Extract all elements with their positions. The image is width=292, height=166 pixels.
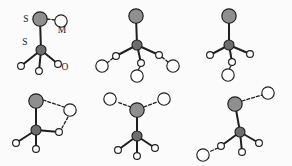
atom-oxygen-3 xyxy=(152,145,159,152)
atom-oxygen-1 xyxy=(18,63,25,70)
hydrogen-bond xyxy=(62,117,68,128)
atom-water-1 xyxy=(222,69,234,81)
structure-panel-e xyxy=(104,93,170,160)
atom-label-water-molecule: M xyxy=(58,25,67,35)
hydrogen-bond xyxy=(47,19,55,20)
structure-panel-a: SMSO xyxy=(18,12,69,75)
structure-panel-f xyxy=(197,87,274,161)
atom-central-sulfur xyxy=(31,125,41,135)
atom-oxygen-3 xyxy=(256,140,263,147)
atom-central-sulfur xyxy=(224,40,234,50)
atom-central-sulfur xyxy=(132,40,142,50)
atom-label-oxygen: O xyxy=(62,62,69,72)
atom-central-sulfur xyxy=(235,127,245,137)
atom-water-1 xyxy=(104,93,116,105)
atom-terminal-sulfur xyxy=(222,9,236,23)
atom-water-3 xyxy=(167,60,179,72)
atom-oxygen-1 xyxy=(13,140,20,147)
structure-panel-c xyxy=(207,9,254,81)
atom-terminal-sulfur xyxy=(29,94,43,108)
atom-label-central-sulfur: S xyxy=(22,37,27,47)
atom-terminal-sulfur xyxy=(228,97,242,111)
hydrogen-bond xyxy=(162,57,168,62)
atom-oxygen-2 xyxy=(229,59,236,66)
figure-canvas: SMSO xyxy=(0,0,292,166)
atom-central-sulfur xyxy=(36,45,46,55)
hydrogen-bond xyxy=(209,148,218,152)
atom-oxygen-2 xyxy=(134,153,141,160)
atom-oxygen-2 xyxy=(36,68,43,75)
atom-water-2 xyxy=(131,70,143,82)
atom-water-2 xyxy=(158,93,170,105)
hydrogen-bond xyxy=(107,58,113,63)
atom-oxygen-1 xyxy=(218,143,225,150)
atom-terminal-sulfur xyxy=(130,103,144,117)
atom-oxygen-2 xyxy=(33,146,40,153)
atom-terminal-sulfur xyxy=(129,9,143,23)
atom-terminal-sulfur xyxy=(33,12,47,26)
atom-water-1 xyxy=(64,104,76,116)
atom-oxygen-3 xyxy=(247,51,254,58)
atom-water-1 xyxy=(96,60,108,72)
atom-label-terminal-sulfur: S xyxy=(23,14,28,24)
atom-water-1 xyxy=(262,87,274,99)
structure-panel-d xyxy=(13,94,77,153)
atom-oxygen-1 xyxy=(115,147,122,154)
atom-oxygen-bridge xyxy=(56,129,63,136)
hydrogen-bond xyxy=(242,95,262,101)
atom-oxygen-2 xyxy=(239,149,246,156)
atom-oxygen-3 xyxy=(156,52,163,59)
atom-central-sulfur xyxy=(132,131,142,141)
molecular-structures-figure: SMSO xyxy=(0,0,292,166)
atom-oxygen-1 xyxy=(113,53,120,60)
hydrogen-bond xyxy=(144,102,157,107)
atom-oxygen-3 xyxy=(55,61,62,68)
hydrogen-bond xyxy=(117,102,131,107)
atom-water-2 xyxy=(197,149,209,161)
hydrogen-bond xyxy=(43,100,64,107)
structure-panel-b xyxy=(96,9,179,82)
atom-oxygen-2 xyxy=(138,60,145,67)
atom-oxygen-1 xyxy=(207,52,214,59)
